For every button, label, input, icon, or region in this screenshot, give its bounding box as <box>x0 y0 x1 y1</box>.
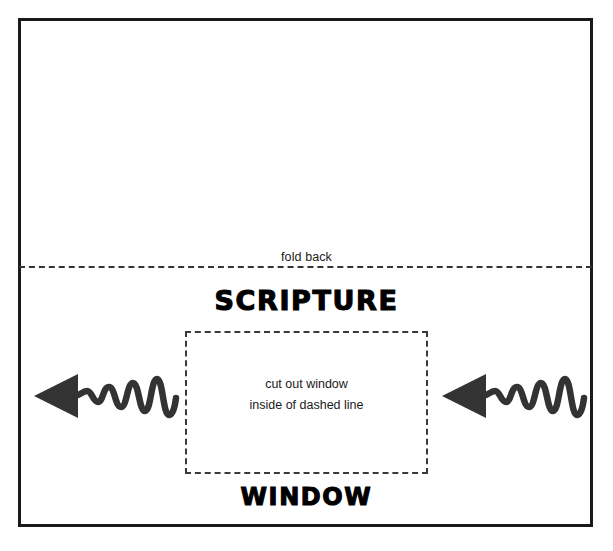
squiggly-arrow-left-icon <box>32 366 180 426</box>
fold-dashed-line <box>19 266 592 268</box>
page-canvas: fold back SCRIPTURE cut out window insid… <box>0 0 613 551</box>
heading-window: WINDOW <box>0 484 613 510</box>
squiggly-arrow-right-icon <box>440 366 588 426</box>
cutout-instructions: cut out window inside of dashed line <box>185 374 428 416</box>
heading-scripture: SCRIPTURE <box>0 286 613 315</box>
fold-back-label: fold back <box>0 250 613 265</box>
cutout-instruction-line-2: inside of dashed line <box>185 395 428 416</box>
cutout-instruction-line-1: cut out window <box>185 374 428 395</box>
fold-back-label-text: fold back <box>274 250 339 265</box>
